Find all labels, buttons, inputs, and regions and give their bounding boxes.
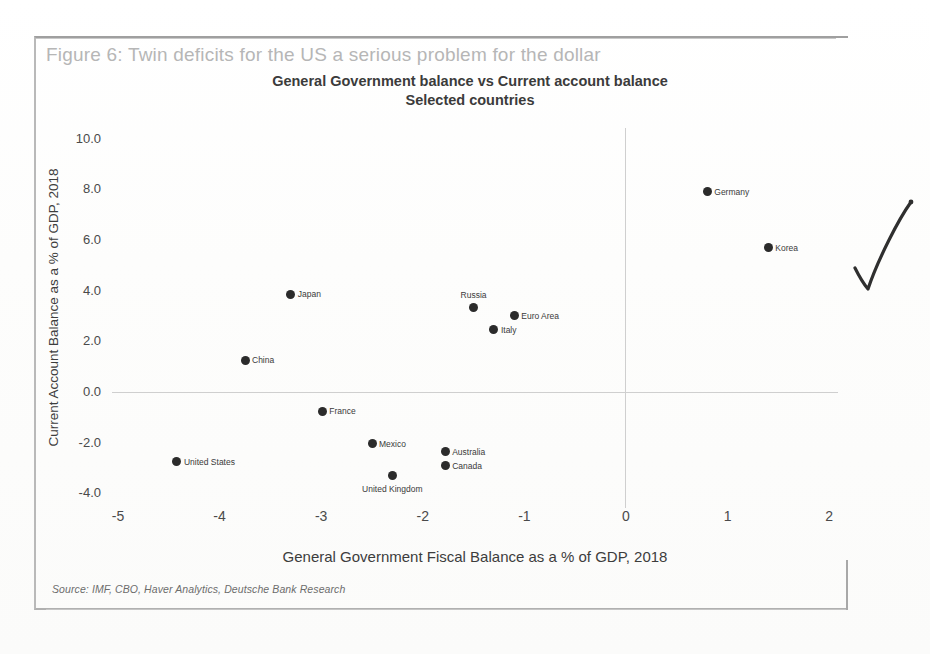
data-point: [510, 311, 519, 320]
data-point: [241, 356, 250, 365]
y-tick-label: 4.0: [55, 283, 101, 298]
data-point-label: Germany: [714, 187, 749, 197]
data-point: [388, 471, 397, 480]
data-point-label: Italy: [501, 325, 517, 335]
data-point-label: China: [252, 355, 274, 365]
y-tick-label: 2.0: [55, 333, 101, 348]
x-tick-label: 1: [708, 508, 748, 524]
x-tick-label: -3: [301, 508, 341, 524]
zero-line-horizontal: [112, 392, 838, 393]
x-tick-label: 2: [809, 508, 849, 524]
y-tick-label: -4.0: [55, 485, 101, 500]
data-point-label: Canada: [452, 461, 482, 471]
y-tick-label: 8.0: [55, 181, 101, 196]
y-tick-label: 0.0: [55, 384, 101, 399]
x-tick-label: 0: [606, 508, 646, 524]
data-point: [703, 187, 712, 196]
zero-line-vertical: [625, 128, 626, 508]
data-point-label: France: [329, 406, 355, 416]
data-point: [368, 439, 377, 448]
x-tick-label: -4: [200, 508, 240, 524]
x-tick-label: -2: [403, 508, 443, 524]
figure-page: Figure 6: Twin deficits for the US a ser…: [0, 0, 930, 654]
data-point-label: Mexico: [379, 439, 406, 449]
x-axis-title: General Government Fiscal Balance as a %…: [165, 548, 785, 565]
data-point-label: Russia: [461, 290, 487, 300]
y-tick-label: -2.0: [55, 435, 101, 450]
data-point-label: Euro Area: [521, 311, 559, 321]
x-tick-label: -5: [98, 508, 138, 524]
y-tick-label: 6.0: [55, 232, 101, 247]
source-note: Source: IMF, CBO, Haver Analytics, Deuts…: [52, 583, 345, 595]
data-point: [469, 303, 478, 312]
source-divider: [46, 609, 846, 610]
y-tick-label: 10.0: [55, 131, 101, 146]
x-tick-label: -1: [504, 508, 544, 524]
data-point-label: United States: [184, 457, 235, 467]
data-point: [441, 461, 450, 470]
data-point-label: Japan: [298, 289, 321, 299]
handwritten-check-icon: [845, 190, 925, 305]
data-point: [489, 325, 498, 334]
data-point-label: United Kingdom: [362, 484, 422, 494]
data-point: [172, 457, 181, 466]
data-point-label: Korea: [775, 243, 798, 253]
data-point: [764, 243, 773, 252]
y-axis-title: Current Account Balance as a % of GDP, 2…: [46, 143, 61, 473]
data-point: [286, 290, 295, 299]
plot-area: 10.08.06.04.02.00.0-2.0-4.0 -5-4-3-2-101…: [0, 0, 930, 654]
data-point-label: Australia: [452, 447, 485, 457]
data-point: [441, 447, 450, 456]
data-point: [318, 407, 327, 416]
